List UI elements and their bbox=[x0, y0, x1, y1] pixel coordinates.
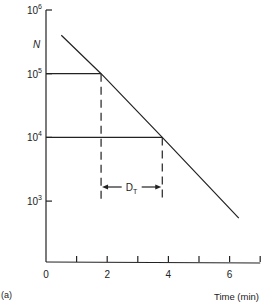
axis-labels: 1031041051060246NTime (min)(a)DT bbox=[1, 3, 259, 302]
x-tick-label: 0 bbox=[43, 269, 49, 280]
dt-label: DT bbox=[126, 182, 138, 195]
survivor-curve-chart: 1031041051060246NTime (min)(a)DT bbox=[0, 0, 261, 308]
y-tick-label: 104 bbox=[27, 130, 42, 143]
guide-lines bbox=[46, 74, 162, 200]
x-axis bbox=[46, 262, 260, 263]
x-axis-label: Time (min) bbox=[214, 291, 259, 302]
arrowhead-left-icon bbox=[102, 185, 108, 190]
y-tick-label: 105 bbox=[27, 67, 42, 80]
x-tick-label: 4 bbox=[166, 269, 172, 280]
x-tick-label: 6 bbox=[227, 269, 233, 280]
y-axis-label: N bbox=[33, 39, 41, 50]
y-tick-label: 103 bbox=[27, 194, 42, 207]
x-tick-label: 2 bbox=[104, 269, 110, 280]
axes bbox=[46, 10, 260, 263]
y-tick-label: 106 bbox=[27, 3, 42, 16]
panel-label: (a) bbox=[1, 290, 12, 300]
arrowhead-right-icon bbox=[155, 185, 161, 190]
survivor-line bbox=[61, 35, 239, 218]
data-series bbox=[61, 35, 239, 218]
